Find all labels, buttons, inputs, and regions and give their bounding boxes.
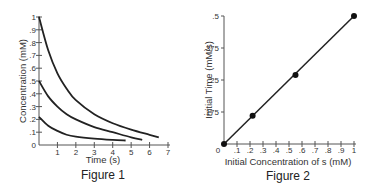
x-tick-label: .4	[273, 146, 280, 155]
y-tick-label: .1	[29, 128, 36, 137]
x-tick-label: 1	[352, 146, 357, 155]
data-point	[293, 72, 299, 78]
x-tick-label: 5	[129, 148, 134, 157]
y-tick-label: .3	[29, 103, 36, 112]
x-tick-label: 1	[55, 148, 60, 157]
figure-1-chart: 12345670.1.2.3.4.5.6.7.8.91 Concentratio…	[17, 13, 171, 182]
decay-curve	[39, 117, 126, 141]
x-tick-label: 7	[166, 148, 171, 157]
figure-1-caption: Figure 1	[81, 168, 125, 182]
figure-1-xlabel: Time (s)	[86, 154, 120, 165]
x-tick-label: .2	[247, 146, 254, 155]
x-tick-label: .9	[338, 146, 345, 155]
y-tick-label: 1	[32, 13, 37, 22]
x-tick-label: .3	[260, 146, 267, 155]
y-tick-label: .7	[29, 51, 36, 60]
data-point	[221, 141, 227, 147]
x-tick-label: 0	[216, 146, 221, 155]
x-tick-label: 2	[74, 148, 79, 157]
y-tick-label: .9	[29, 26, 36, 35]
x-tick-label: .1	[234, 146, 241, 155]
y-tick-label: .6	[29, 64, 36, 73]
figure-2-ylabel: Initial Time (mM/s)	[203, 41, 214, 119]
x-tick-label: .6	[299, 146, 306, 155]
figure-2-caption: Figure 2	[266, 169, 310, 183]
fit-line	[224, 16, 354, 144]
data-point	[250, 113, 256, 119]
figures-canvas: 12345670.1.2.3.4.5.6.7.8.91 Concentratio…	[0, 0, 371, 192]
y-tick-label: .2	[29, 115, 36, 124]
x-tick-label: .8	[325, 146, 332, 155]
x-tick-label: .7	[312, 146, 319, 155]
decay-curve	[39, 81, 142, 140]
y-tick-label: .4	[29, 90, 36, 99]
y-tick-label: .5	[212, 12, 219, 21]
figure-1-ylabel: Concentration (mM)	[17, 39, 28, 123]
decay-curve	[39, 17, 159, 137]
figure-2-xlabel: Initial Concentration of s (mM)	[225, 156, 352, 167]
data-point	[351, 13, 357, 19]
y-tick-label: .5	[29, 77, 36, 86]
y-tick-label: 0	[32, 141, 37, 150]
figure-2-chart: 0.1.2.3.4.5.6.7.8.91.175.25.375.5 Initia…	[203, 12, 357, 183]
x-tick-label: .5	[286, 146, 293, 155]
y-tick-label: .8	[29, 39, 36, 48]
x-tick-label: 6	[147, 148, 152, 157]
